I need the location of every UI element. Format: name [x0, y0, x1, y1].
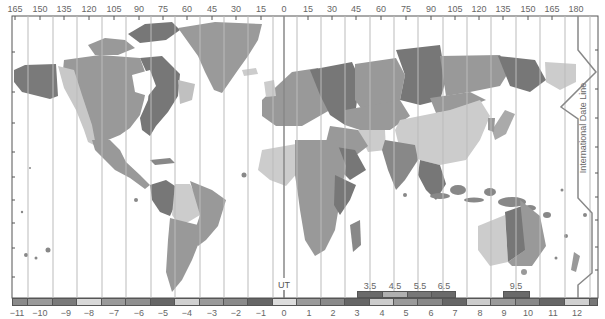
longitude-label: 75: [401, 4, 411, 14]
longitude-label: 45: [351, 4, 361, 14]
zone-label: 11: [548, 308, 557, 318]
longitude-label: 180: [568, 4, 583, 14]
longitude-label: 165: [544, 4, 559, 14]
zone-label: 6: [428, 308, 433, 318]
zone-cell: [565, 298, 590, 306]
longitude-label: 60: [376, 4, 386, 14]
zone-cell: [224, 298, 248, 306]
half-zone-label: 6.5: [438, 281, 451, 291]
zone-label: 8: [477, 308, 482, 318]
longitude-label: 135: [56, 4, 71, 14]
zone-label: −1: [256, 308, 266, 318]
zone-cell: [126, 298, 151, 306]
zone-cell: [102, 298, 126, 306]
zone-label: −4: [182, 308, 192, 318]
zone-cell: [590, 298, 598, 306]
half-zone-box: [407, 291, 432, 298]
half-zone-label: 4.5: [389, 281, 402, 291]
longitude-label: 90: [134, 4, 144, 14]
zone-cell: [394, 298, 418, 306]
zone-label: −5: [158, 308, 168, 318]
longitude-label: 105: [447, 4, 462, 14]
longitude-label: 105: [106, 4, 121, 14]
zone-cell: [321, 298, 345, 306]
region-tasmania: [521, 269, 527, 275]
ut-label: UT: [278, 280, 290, 290]
half-zone-label: 5.5: [414, 281, 427, 291]
zone-cell: [443, 298, 467, 306]
zone-label: −6: [134, 308, 144, 318]
zone-label: 10: [523, 308, 533, 318]
zone-label: 3: [354, 308, 359, 318]
zone-cell: [540, 298, 565, 306]
half-zone-box: [503, 291, 530, 298]
longitude-label: 30: [231, 4, 241, 14]
zone-cell: [28, 298, 53, 306]
longitude-label: 120: [471, 4, 486, 14]
half-zone-label: 3.5: [364, 281, 377, 291]
zone-label: −9: [61, 308, 71, 318]
zone-label: 9: [501, 308, 506, 318]
zone-cell: [297, 298, 321, 306]
longitude-label: 60: [182, 4, 192, 14]
longitude-label: 0: [281, 4, 286, 14]
zone-label: 0: [281, 308, 286, 318]
zone-label: 4: [379, 308, 384, 318]
longitude-label: 15: [256, 4, 266, 14]
zone-cell: [53, 298, 77, 306]
longitude-label: 75: [158, 4, 168, 14]
zone-label: −11: [10, 308, 25, 318]
longitude-label: 135: [495, 4, 510, 14]
half-zone-label: 9.5: [510, 281, 523, 291]
zone-label: 1: [306, 308, 311, 318]
zone-label: −2: [231, 308, 241, 318]
zone-cell: [467, 298, 491, 306]
half-zone-box: [357, 291, 383, 298]
zone-label: −3: [207, 308, 217, 318]
longitude-label: 150: [520, 4, 535, 14]
longitude-label: 30: [327, 4, 337, 14]
longitude-label: 165: [7, 4, 22, 14]
zone-cell: [12, 298, 28, 306]
longitude-label: 45: [207, 4, 217, 14]
zone-cell: [273, 298, 297, 306]
zone-cell: [516, 298, 540, 306]
half-zone-box: [382, 291, 408, 298]
zone-cell: [418, 298, 443, 306]
international-date-line-label: International Date Line: [578, 83, 588, 174]
region-uk: [264, 80, 276, 97]
zone-cell: [248, 298, 273, 306]
world-time-zone-map: [0, 0, 605, 319]
zone-label: −7: [109, 308, 119, 318]
zone-label: 7: [452, 308, 457, 318]
longitude-label: 120: [81, 4, 96, 14]
zone-cell: [200, 298, 224, 306]
zone-label: 5: [403, 308, 408, 318]
zone-cell: [175, 298, 200, 306]
zone-cell: [370, 298, 394, 306]
longitude-label: 15: [303, 4, 313, 14]
zone-cell: [345, 298, 370, 306]
longitude-label: 150: [32, 4, 47, 14]
half-zone-box: [431, 291, 456, 298]
zone-cell: [151, 298, 175, 306]
zone-label: 12: [572, 308, 582, 318]
zone-cell: [77, 298, 102, 306]
zone-cell: [491, 298, 516, 306]
zone-label: 2: [330, 308, 335, 318]
zone-label: −10: [32, 308, 47, 318]
longitude-label: 90: [426, 4, 436, 14]
zone-label: −8: [84, 308, 94, 318]
